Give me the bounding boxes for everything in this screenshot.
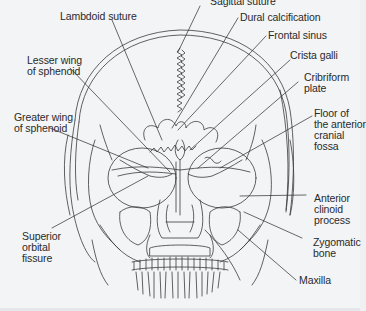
label-maxilla: Maxilla xyxy=(299,275,331,286)
label-crista-galli: Crista galli xyxy=(290,50,338,61)
label-cribriform-plate: Cribriform plate xyxy=(304,72,349,94)
leader-lines xyxy=(50,6,312,280)
label-zygomatic-bone: Zygomatic bone xyxy=(313,237,361,259)
label-lesser-wing-of-sphenoid: Lesser wing of sphenoid xyxy=(27,55,82,77)
label-dural-calcification: Dural calcification xyxy=(240,12,320,23)
label-floor-of-anterior-cranial-fossa: Floor of the anterior cranial fossa xyxy=(314,108,366,152)
label-superior-orbital-fissure: Superior orbital fissure xyxy=(22,231,61,264)
label-anterior-clinoid-process: Anterior clinoid process xyxy=(314,193,350,226)
label-lambdoid-suture: Lambdoid suture xyxy=(60,11,137,22)
label-greater-wing-of-sphenoid: Greater wing of sphenoid xyxy=(14,112,73,134)
label-sagittal-suture: Sagittal suture xyxy=(210,0,276,7)
skull-diagram: Sagittal suture Lambdoid suture Dural ca… xyxy=(0,0,360,308)
label-frontal-sinus: Frontal sinus xyxy=(268,30,327,41)
